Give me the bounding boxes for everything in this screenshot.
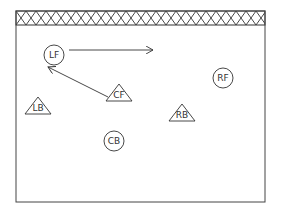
field-boundary <box>16 11 265 202</box>
player-label: RB <box>176 110 188 120</box>
field-rectangle <box>16 11 265 202</box>
player-cf: CF <box>106 84 132 101</box>
hatched-goal-band <box>16 11 265 25</box>
arrow-cf-pass <box>48 67 108 97</box>
player-lb: LB <box>25 97 51 114</box>
player-label: RF <box>217 73 228 83</box>
player-cb: CB <box>104 131 124 151</box>
player-label: CF <box>113 90 124 100</box>
player-rf: RF <box>213 68 233 88</box>
player-label: LF <box>49 50 59 60</box>
player-label: LB <box>32 103 43 113</box>
player-rb: RB <box>169 104 195 121</box>
player-lf: LF <box>44 45 64 65</box>
formation-diagram: LF RF CB CF LB RB <box>0 0 286 211</box>
player-label: CB <box>108 136 120 146</box>
